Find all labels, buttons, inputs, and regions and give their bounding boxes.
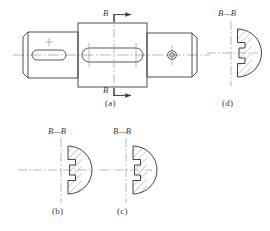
cutting-plane-mark-top (114, 14, 131, 22)
section-b-geometry (18, 138, 92, 203)
caption-a: (a) (105, 98, 116, 108)
cut-label-top-b: B (103, 8, 108, 18)
cutting-plane-mark-bottom (114, 88, 131, 96)
caption-b: (b) (52, 206, 63, 216)
technical-drawing-svg (0, 0, 270, 231)
caption-c: (c) (117, 206, 128, 216)
section-d-geometry (206, 21, 262, 86)
cut-label-bottom-b: B (103, 85, 108, 95)
section-label-d: B—B (218, 8, 236, 18)
section-c-geometry (100, 138, 157, 203)
caption-d: (d) (222, 98, 233, 108)
section-label-b: B—B (48, 126, 66, 136)
section-label-c: B—B (113, 126, 131, 136)
main-shaft-view (13, 14, 210, 96)
drawing-sheet: B B (a) B—B (d) B—B (b) B—B (c) (0, 0, 270, 231)
